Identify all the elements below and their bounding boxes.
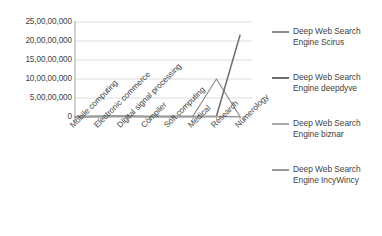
legend-item[interactable]: Deep Web SearchEngine biznar [272, 118, 379, 140]
x-axis-tick-label: Numerology [234, 93, 271, 130]
x-axis-labels: Mobile computingElectronic commerceDigit… [0, 0, 270, 236]
legend-item[interactable]: Deep Web SearchEngine IncyWincy [272, 164, 379, 186]
legend-label: Deep Web SearchEngine Scirus [293, 26, 379, 48]
legend-label: Deep Web SearchEngine IncyWincy [293, 164, 379, 186]
legend-item[interactable]: Deep Web SearchEngine deepdyve [272, 72, 379, 94]
plot-area: 25,00,00,00020,00,00,00015,00,00,00010,0… [0, 0, 270, 236]
legend-item[interactable]: Deep Web SearchEngine Scirus [272, 26, 379, 48]
legend-color-swatch [272, 31, 289, 33]
x-axis-tick-label: Medical [187, 104, 213, 130]
legend-label: Deep Web SearchEngine deepdyve [293, 72, 379, 94]
chart-legend: Deep Web SearchEngine ScirusDeep Web Sea… [272, 0, 382, 236]
legend-color-swatch [272, 123, 289, 125]
legend-color-swatch [272, 77, 289, 79]
legend-label: Deep Web SearchEngine biznar [293, 118, 379, 140]
legend-color-swatch [272, 169, 289, 171]
line-chart: 25,00,00,00020,00,00,00015,00,00,00010,0… [0, 0, 382, 236]
